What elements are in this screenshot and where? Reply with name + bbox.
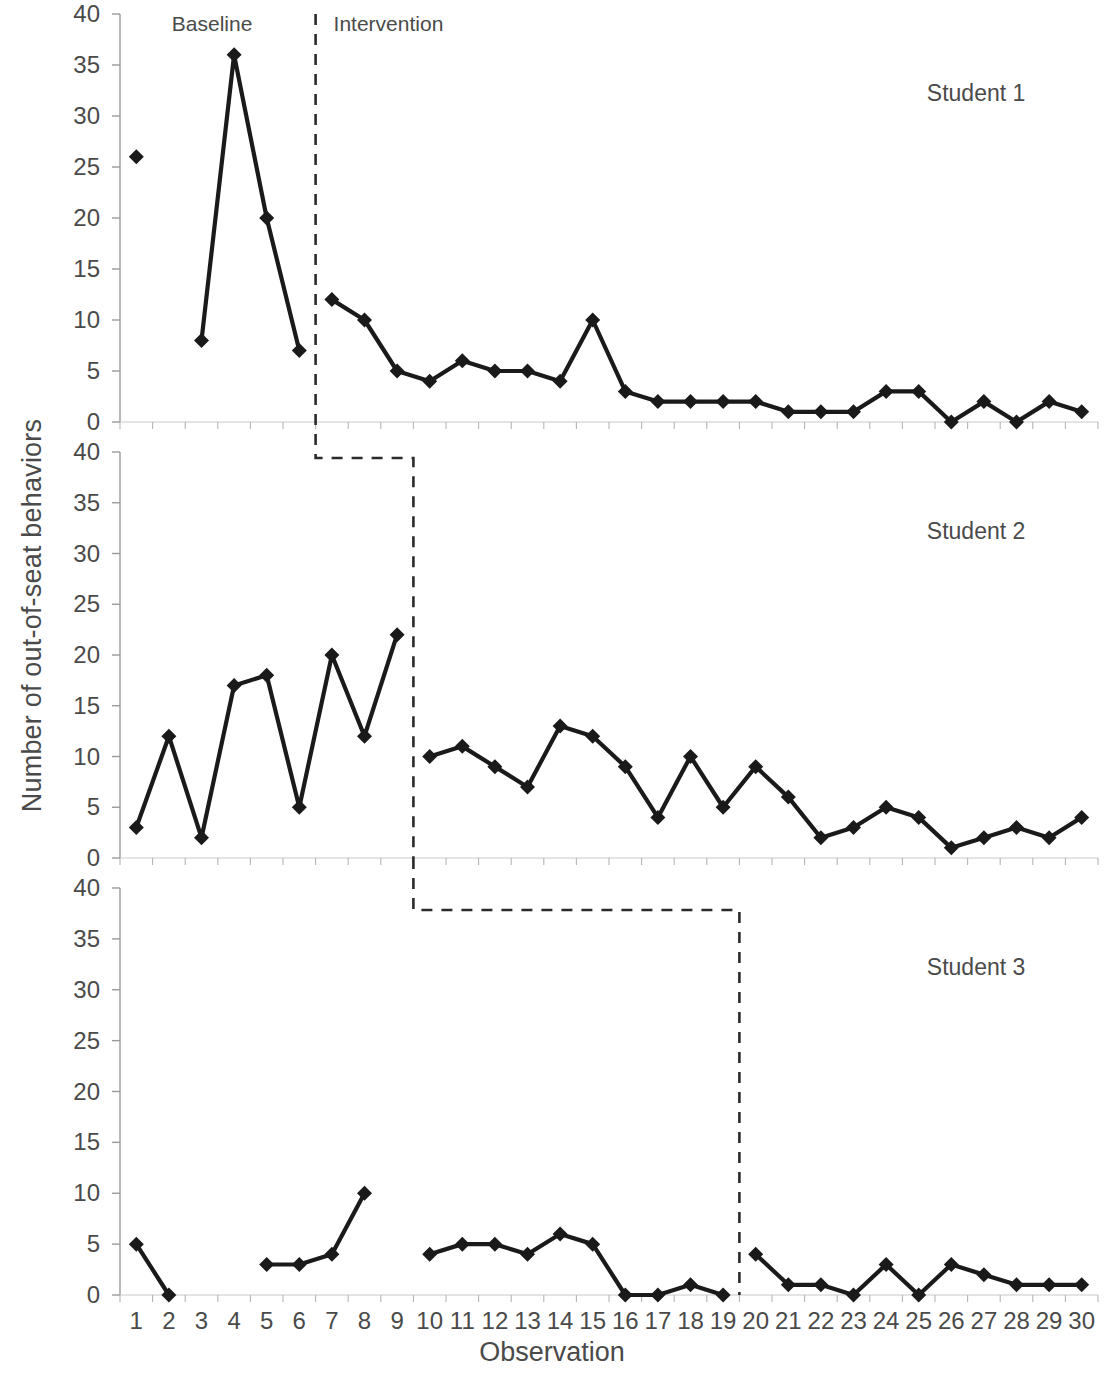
- phase-lines: [0, 0, 1104, 1375]
- annotation-baseline: Baseline: [172, 12, 253, 36]
- chart-root: Number of out-of-seat behaviors Observat…: [0, 0, 1104, 1375]
- phase-line-2-3: [413, 858, 739, 1295]
- annotation-intervention: Intervention: [334, 12, 444, 36]
- phase-line-1-2: [316, 14, 414, 858]
